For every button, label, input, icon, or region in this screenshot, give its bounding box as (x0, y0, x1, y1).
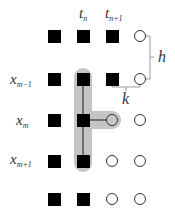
k-label: k (122, 91, 129, 107)
h-label: h (158, 49, 166, 65)
grid-node-square (48, 114, 61, 127)
row-label-xm: xm (16, 113, 28, 130)
grid-node-square (77, 155, 90, 168)
grid-node-square (48, 73, 61, 86)
grid-node-square (48, 193, 61, 206)
grid-node-square (106, 30, 119, 43)
grid-node-circle (134, 30, 146, 42)
grid-node-circle (106, 155, 118, 167)
row-label-xm-1: xm−1 (10, 72, 32, 89)
column-label-tn1: tn+1 (105, 6, 123, 23)
grid-node-square (48, 30, 61, 43)
row-label-xm1: xm+1 (10, 152, 32, 169)
grid-node-square (106, 73, 119, 86)
grid-node-circle (134, 193, 146, 205)
grid-node-circle (106, 193, 118, 205)
grid-node-square (77, 73, 90, 86)
grid-node-circle (134, 73, 146, 85)
grid-node-circle (134, 155, 146, 167)
grid-node-circle (134, 114, 146, 126)
column-label-tn: tn (79, 6, 87, 23)
h-bracket (146, 36, 150, 79)
grid-node-square (77, 193, 90, 206)
grid-node-filled-circle (106, 114, 118, 126)
grid-node-square (77, 30, 90, 43)
grid-node-square (77, 114, 90, 127)
stencil-diagram: tn tn+1 xm−1 xm xm+1 h k (0, 0, 175, 216)
grid-node-square (48, 155, 61, 168)
